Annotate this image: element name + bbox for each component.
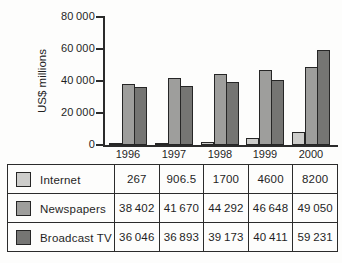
table-value-cell: 49 050	[293, 194, 338, 223]
y-tick-mark	[96, 80, 103, 82]
y-axis-title: US$ millions	[35, 16, 49, 146]
y-tick-label: 60 000	[53, 42, 95, 55]
legend-swatch-broadcast-tv	[16, 230, 31, 245]
x-tick-label: 2000	[288, 148, 334, 160]
series-label-cell: Broadcast TV	[8, 223, 115, 252]
y-tick-mark	[96, 16, 103, 18]
x-tick-label: 1999	[242, 148, 288, 160]
x-axis-line	[103, 145, 338, 147]
bar-plot-area	[103, 17, 338, 145]
table-value-cell: 39 173	[204, 223, 249, 252]
figure: US$ millions 80 000 60 000 40 000 20 000…	[0, 0, 342, 263]
legend-swatch-internet	[16, 172, 31, 187]
table-value-cell: 36 893	[159, 223, 204, 252]
y-tick-label: 80 000	[53, 10, 95, 23]
y-tick-mark	[96, 112, 103, 114]
table-value-cell: 267	[115, 165, 160, 194]
bar-broadcast-tv-2000	[317, 50, 330, 145]
bar-broadcast-tv-1999	[271, 80, 284, 145]
legend-data-table: Internet267906.5170046008200Newspapers38…	[7, 164, 338, 252]
table-value-cell: 8200	[293, 165, 338, 194]
y-tick-mark	[96, 48, 103, 50]
bar-broadcast-tv-1998	[226, 82, 239, 145]
table-value-cell: 46 648	[248, 194, 293, 223]
table-row: Internet267906.5170046008200	[8, 165, 338, 194]
series-label-cell: Newspapers	[8, 194, 115, 223]
bar-internet-1998	[201, 142, 214, 145]
table-value-cell: 44 292	[204, 194, 249, 223]
table-value-cell: 36 046	[115, 223, 160, 252]
y-tick-label: 0	[53, 138, 95, 151]
bar-broadcast-tv-1996	[134, 87, 147, 145]
legend-swatch-newspapers	[16, 201, 31, 216]
y-tick-mark	[96, 144, 103, 146]
table-value-cell: 4600	[248, 165, 293, 194]
series-label: Internet	[40, 174, 81, 186]
x-tick-label: 1997	[151, 148, 197, 160]
series-label-cell: Internet	[8, 165, 115, 194]
table-value-cell: 1700	[204, 165, 249, 194]
table-value-cell: 59 231	[293, 223, 338, 252]
bar-internet-1997	[155, 143, 168, 145]
y-tick-label: 20 000	[53, 106, 95, 119]
table-row: Broadcast TV36 04636 89339 17340 41159 2…	[8, 223, 338, 252]
bar-internet-1999	[246, 138, 259, 145]
series-label: Broadcast TV	[40, 232, 112, 244]
series-label: Newspapers	[40, 203, 106, 215]
y-tick-label: 40 000	[53, 74, 95, 87]
x-tick-label: 1996	[105, 148, 151, 160]
table-row: Newspapers38 40241 67044 29246 64849 050	[8, 194, 338, 223]
table-value-cell: 41 670	[159, 194, 204, 223]
bar-internet-1996	[109, 143, 122, 145]
x-tick-label: 1998	[197, 148, 243, 160]
table-value-cell: 906.5	[159, 165, 204, 194]
bar-broadcast-tv-1997	[180, 86, 193, 145]
table-value-cell: 38 402	[115, 194, 160, 223]
bar-internet-2000	[292, 132, 305, 145]
table-value-cell: 40 411	[248, 223, 293, 252]
